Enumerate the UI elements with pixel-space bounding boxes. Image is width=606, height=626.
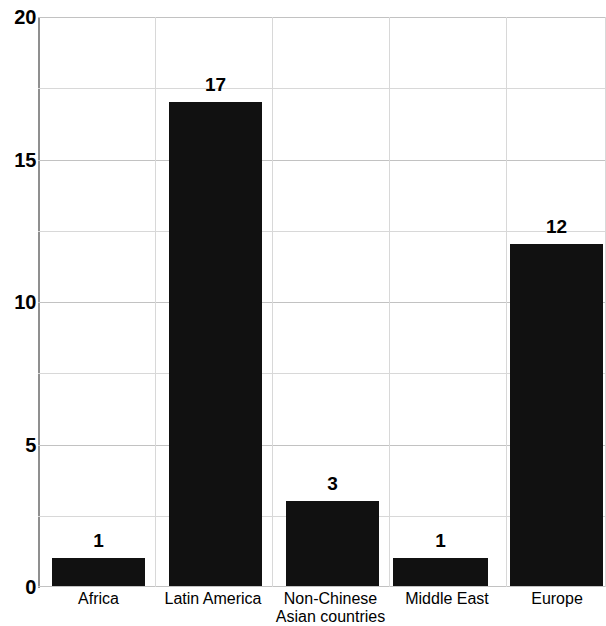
plot-area: 1 17 3 1 12 — [38, 17, 606, 587]
x-tick-label-non-chinese-line1: Non-Chinese — [284, 590, 377, 607]
y-tick-label-0: 0 — [4, 577, 36, 597]
bar-africa[interactable] — [52, 558, 145, 587]
x-tick-label-africa: Africa — [46, 590, 151, 608]
gridline-h-17p5 — [38, 88, 606, 89]
bar-value-latin-america: 17 — [169, 75, 262, 94]
gridline-h-0 — [38, 586, 606, 587]
y-axis-labels: 20 15 10 5 0 — [0, 0, 36, 621]
y-tick-label-5: 5 — [4, 435, 36, 455]
bar-non-chinese-asian-countries[interactable] — [286, 501, 379, 587]
gridline-h-20 — [38, 17, 606, 18]
gridline-v-2 — [272, 17, 273, 587]
x-tick-label-latin-america-line1: Latin America — [165, 590, 262, 607]
x-tick-label-non-chinese-asian-countries: Non-Chinese Asian countries — [273, 590, 388, 626]
x-tick-label-europe-line1: Europe — [531, 590, 583, 607]
bar-europe[interactable] — [510, 244, 603, 586]
gridline-v-3 — [389, 17, 390, 587]
gridline-h-15 — [38, 160, 606, 161]
x-tick-label-latin-america: Latin America — [158, 590, 268, 608]
bar-value-non-chinese-asian-countries: 3 — [286, 474, 379, 493]
bar-value-middle-east: 1 — [393, 531, 488, 550]
bar-latin-america[interactable] — [169, 102, 262, 587]
gridline-v-1 — [155, 17, 156, 587]
gridline-v-4 — [506, 17, 507, 587]
x-tick-label-middle-east-line1: Middle East — [405, 590, 489, 607]
bar-value-africa: 1 — [52, 531, 145, 550]
bar-value-europe: 12 — [510, 217, 603, 236]
x-axis-labels: Africa Latin America Non-Chinese Asian c… — [38, 590, 606, 621]
x-tick-label-non-chinese-line2: Asian countries — [273, 608, 388, 626]
bar-middle-east[interactable] — [393, 558, 488, 587]
y-tick-label-20: 20 — [4, 7, 36, 27]
y-tick-label-15: 15 — [4, 150, 36, 170]
x-tick-label-europe: Europe — [508, 590, 606, 608]
x-tick-label-middle-east: Middle East — [390, 590, 504, 608]
x-tick-label-africa-line1: Africa — [78, 590, 119, 607]
y-tick-label-10: 10 — [4, 292, 36, 312]
